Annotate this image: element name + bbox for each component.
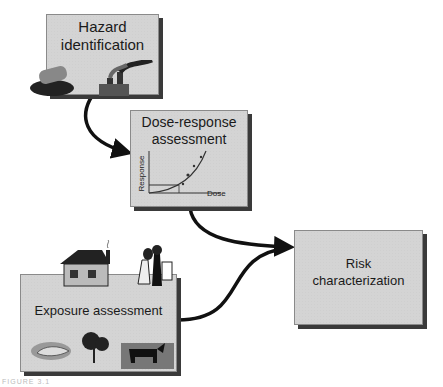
- house-and-family-illustration-icon: [58, 240, 198, 298]
- y-axis-label: Response: [137, 155, 146, 191]
- figure-caption: FIGURE 3.1: [2, 378, 50, 385]
- node-dose-response-assessment: Dose-response assessment Response Dose: [130, 110, 248, 207]
- arrow-dose-to-risk: [190, 208, 288, 247]
- node-hazard-identification: Hazard identification: [46, 14, 159, 95]
- node-title: Risk: [295, 257, 422, 272]
- wildlife-illustration-icon: [29, 329, 174, 369]
- node-title: Hazard: [47, 18, 158, 35]
- node-risk-characterization: Risk characterization: [294, 230, 423, 325]
- node-title: assessment: [131, 131, 247, 147]
- pollution-illustration-icon: [27, 60, 162, 100]
- node-title: Dose-response: [131, 114, 247, 130]
- arrow-hazard-to-dose: [86, 96, 126, 152]
- dose-response-curve-icon: [131, 147, 249, 207]
- node-title: Exposure assessment: [21, 304, 176, 319]
- x-axis-label: Dose: [207, 189, 226, 198]
- node-title: characterization: [295, 274, 422, 289]
- node-title: identification: [47, 36, 158, 53]
